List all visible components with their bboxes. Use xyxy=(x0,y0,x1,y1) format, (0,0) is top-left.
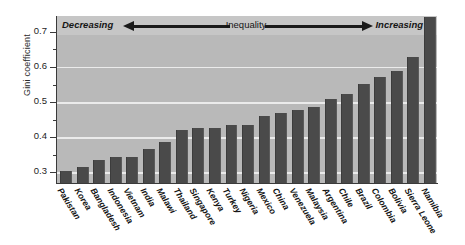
bar xyxy=(176,130,188,183)
bar xyxy=(159,142,171,183)
bar xyxy=(60,171,72,183)
bar xyxy=(308,107,320,183)
y-tick-label: 0.5 xyxy=(34,95,47,106)
bar xyxy=(110,157,122,183)
y-tick-label: 0.3 xyxy=(34,165,47,176)
bar xyxy=(325,99,337,183)
bar xyxy=(192,128,204,183)
bar xyxy=(407,57,419,183)
bar-series xyxy=(57,16,437,183)
bar xyxy=(209,128,221,183)
bar xyxy=(259,116,271,184)
y-tick-label: 0.7 xyxy=(34,25,47,36)
bar xyxy=(93,160,105,183)
bar xyxy=(275,113,287,183)
bar xyxy=(292,110,304,183)
plot-area: Decreasing Inequality Increasing xyxy=(57,16,437,183)
bar xyxy=(126,157,138,183)
bar xyxy=(143,149,155,183)
gini-coefficient-bar-chart: Gini coefficient 0.30.40.50.60.7 Decreas… xyxy=(0,0,465,245)
bar xyxy=(242,125,254,183)
bar xyxy=(391,71,403,183)
bar xyxy=(226,125,238,183)
y-tick-label: 0.6 xyxy=(34,60,47,71)
bar xyxy=(358,84,370,183)
bar xyxy=(77,167,89,183)
bar xyxy=(424,17,436,183)
x-axis-tick-labels: PakistanKoreaBangladeshIndonesiaVietnamI… xyxy=(57,186,437,245)
x-axis-line xyxy=(56,183,438,184)
y-tick-label: 0.4 xyxy=(34,130,47,141)
y-axis: 0.30.40.50.60.7 xyxy=(0,0,57,245)
bar xyxy=(374,77,386,183)
bar xyxy=(341,94,353,183)
